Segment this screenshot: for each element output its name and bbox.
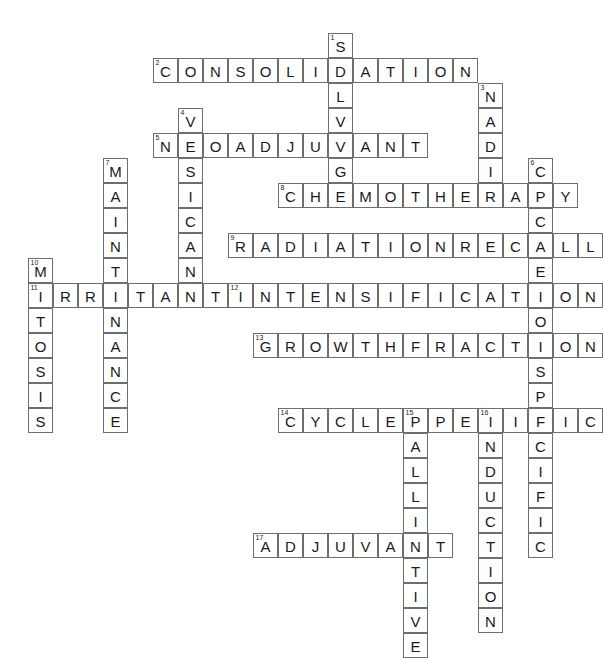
crossword-cell[interactable]: N xyxy=(103,308,128,333)
crossword-cell[interactable]: C xyxy=(478,333,503,358)
crossword-cell[interactable]: N xyxy=(478,433,503,458)
crossword-cell[interactable]: T xyxy=(503,333,528,358)
crossword-cell[interactable]: O xyxy=(178,58,203,83)
crossword-cell[interactable]: I xyxy=(28,383,53,408)
crossword-cell[interactable]: R xyxy=(78,283,103,308)
crossword-cell[interactable]: T xyxy=(103,258,128,283)
crossword-cell[interactable]: O xyxy=(203,133,228,158)
crossword-cell[interactable]: N xyxy=(578,333,603,358)
crossword-cell[interactable]: 1S xyxy=(328,33,353,58)
crossword-cell[interactable]: 16I xyxy=(478,408,503,433)
crossword-cell[interactable]: 2C xyxy=(153,58,178,83)
crossword-cell[interactable]: A xyxy=(328,233,353,258)
crossword-cell[interactable]: L xyxy=(403,458,428,483)
crossword-cell[interactable]: I xyxy=(553,408,578,433)
crossword-cell[interactable]: E xyxy=(178,133,203,158)
crossword-cell[interactable]: 17A xyxy=(253,533,278,558)
crossword-cell[interactable]: A xyxy=(178,233,203,258)
crossword-cell[interactable]: S xyxy=(528,358,553,383)
crossword-cell[interactable]: D xyxy=(253,133,278,158)
crossword-cell[interactable]: H xyxy=(378,333,403,358)
crossword-cell[interactable]: C xyxy=(528,208,553,233)
crossword-cell[interactable]: 9R xyxy=(228,233,253,258)
crossword-cell[interactable]: F xyxy=(403,283,428,308)
crossword-cell[interactable]: E xyxy=(103,408,128,433)
crossword-cell[interactable]: F xyxy=(528,408,553,433)
crossword-cell[interactable]: C xyxy=(503,233,528,258)
crossword-cell[interactable]: R xyxy=(453,233,478,258)
crossword-cell[interactable]: O xyxy=(303,333,328,358)
crossword-cell[interactable]: E xyxy=(478,233,503,258)
crossword-cell[interactable]: I xyxy=(478,558,503,583)
crossword-cell[interactable]: T xyxy=(378,58,403,83)
crossword-cell[interactable]: L xyxy=(353,408,378,433)
crossword-cell[interactable]: W xyxy=(328,333,353,358)
crossword-cell[interactable]: L xyxy=(578,233,603,258)
crossword-cell[interactable]: D xyxy=(278,233,303,258)
crossword-cell[interactable]: I xyxy=(303,233,328,258)
crossword-cell[interactable]: O xyxy=(253,58,278,83)
crossword-cell[interactable]: A xyxy=(453,333,478,358)
crossword-cell[interactable]: U xyxy=(478,483,503,508)
crossword-cell[interactable]: N xyxy=(328,283,353,308)
crossword-cell[interactable]: I xyxy=(378,283,403,308)
crossword-cell[interactable]: T xyxy=(278,283,303,308)
crossword-cell[interactable]: N xyxy=(103,233,128,258)
crossword-cell[interactable]: N xyxy=(178,283,203,308)
crossword-cell[interactable]: I xyxy=(478,158,503,183)
crossword-cell[interactable]: A xyxy=(378,533,403,558)
crossword-cell[interactable]: V xyxy=(328,133,353,158)
crossword-cell[interactable]: J xyxy=(278,133,303,158)
crossword-cell[interactable]: T xyxy=(353,233,378,258)
crossword-cell[interactable]: A xyxy=(403,433,428,458)
crossword-cell[interactable]: U xyxy=(328,533,353,558)
crossword-cell[interactable]: N xyxy=(428,233,453,258)
crossword-cell[interactable]: E xyxy=(453,183,478,208)
crossword-cell[interactable]: J xyxy=(303,533,328,558)
crossword-cell[interactable]: E xyxy=(378,408,403,433)
crossword-cell[interactable]: E xyxy=(403,633,428,658)
crossword-cell[interactable]: I xyxy=(103,208,128,233)
crossword-cell[interactable]: A xyxy=(228,133,253,158)
crossword-cell[interactable]: T xyxy=(403,183,428,208)
crossword-cell[interactable]: L xyxy=(278,58,303,83)
crossword-cell[interactable]: E xyxy=(453,408,478,433)
crossword-cell[interactable]: N xyxy=(453,58,478,83)
crossword-cell[interactable]: C xyxy=(578,408,603,433)
crossword-cell[interactable]: 12I xyxy=(228,283,253,308)
crossword-cell[interactable]: L xyxy=(328,83,353,108)
crossword-cell[interactable]: 3N xyxy=(478,83,503,108)
crossword-cell[interactable]: I xyxy=(303,58,328,83)
crossword-cell[interactable]: O xyxy=(403,233,428,258)
crossword-cell[interactable]: L xyxy=(553,233,578,258)
crossword-cell[interactable]: U xyxy=(303,133,328,158)
crossword-cell[interactable]: N xyxy=(478,608,503,633)
crossword-cell[interactable]: G xyxy=(328,158,353,183)
crossword-cell[interactable]: 11I xyxy=(28,283,53,308)
crossword-cell[interactable]: S xyxy=(28,408,53,433)
crossword-cell[interactable]: E xyxy=(528,258,553,283)
crossword-cell[interactable]: D xyxy=(328,58,353,83)
crossword-cell[interactable]: I xyxy=(403,508,428,533)
crossword-cell[interactable]: V xyxy=(328,108,353,133)
crossword-cell[interactable]: S xyxy=(178,158,203,183)
crossword-cell[interactable]: I xyxy=(503,408,528,433)
crossword-cell[interactable]: T xyxy=(478,533,503,558)
crossword-cell[interactable]: A xyxy=(528,233,553,258)
crossword-cell[interactable]: Y xyxy=(553,183,578,208)
crossword-cell[interactable]: 7M xyxy=(103,158,128,183)
crossword-cell[interactable]: N xyxy=(103,358,128,383)
crossword-cell[interactable]: R xyxy=(478,183,503,208)
crossword-cell[interactable]: I xyxy=(378,233,403,258)
crossword-cell[interactable]: F xyxy=(403,333,428,358)
crossword-cell[interactable]: S xyxy=(353,283,378,308)
crossword-cell[interactable]: D xyxy=(478,133,503,158)
crossword-cell[interactable]: R xyxy=(53,283,78,308)
crossword-cell[interactable]: T xyxy=(128,283,153,308)
crossword-cell[interactable]: N xyxy=(578,283,603,308)
crossword-cell[interactable]: A xyxy=(153,283,178,308)
crossword-cell[interactable]: N xyxy=(178,258,203,283)
crossword-cell[interactable]: H xyxy=(428,183,453,208)
crossword-cell[interactable]: I xyxy=(178,183,203,208)
crossword-cell[interactable]: V xyxy=(353,533,378,558)
